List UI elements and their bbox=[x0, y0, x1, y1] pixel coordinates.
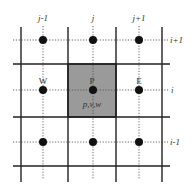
column-label-j-plus-1: j+1 bbox=[131, 13, 145, 23]
node-label-center: P bbox=[89, 76, 94, 86]
row-label-i-minus-1: i-1 bbox=[170, 137, 180, 147]
grid-nodes bbox=[39, 36, 143, 146]
row-label-i: i bbox=[171, 85, 174, 95]
staggered-grid-diagram: j-1 j j+1 i+1 i i-1 W P E p,v,w bbox=[0, 0, 193, 191]
node-center-p bbox=[89, 86, 97, 94]
node-i-plus-1-j-minus-1 bbox=[39, 36, 47, 44]
node-i-minus-1-j-minus-1 bbox=[39, 138, 47, 146]
grid-svg: j-1 j j+1 i+1 i i-1 W P E p,v,w bbox=[0, 0, 193, 191]
node-label-center-variables: p,v,w bbox=[82, 99, 101, 109]
row-label-i-plus-1: i+1 bbox=[170, 35, 183, 45]
node-i-plus-1-j-plus-1 bbox=[135, 36, 143, 44]
node-label-west: W bbox=[39, 76, 48, 86]
node-i-minus-1-j bbox=[89, 138, 97, 146]
column-label-j-minus-1: j-1 bbox=[37, 13, 48, 23]
node-east bbox=[135, 86, 143, 94]
node-label-east: E bbox=[136, 76, 142, 86]
column-label-j: j bbox=[91, 13, 95, 23]
node-i-minus-1-j-plus-1 bbox=[135, 138, 143, 146]
node-west bbox=[39, 86, 47, 94]
node-i-plus-1-j bbox=[89, 36, 97, 44]
